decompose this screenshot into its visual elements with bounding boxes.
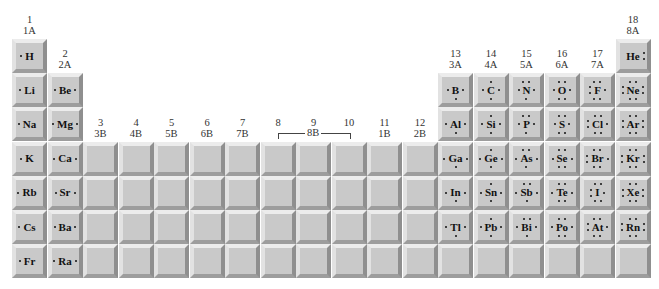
electron-dot <box>599 98 601 100</box>
electron-dot <box>603 192 605 194</box>
element-cell-rb: Rb <box>12 176 47 210</box>
electron-dot <box>526 200 528 202</box>
electron-dot <box>54 226 56 228</box>
electron-dot <box>594 115 596 117</box>
symbol-text: F <box>594 84 601 96</box>
electron-dot <box>564 166 566 168</box>
electron-dot <box>642 86 644 88</box>
empty-element-cell <box>403 210 438 244</box>
element-cell-pb: Pb <box>474 210 509 244</box>
cell-content: Bi <box>513 214 540 240</box>
cell-content: Sn <box>478 180 505 206</box>
symbol-text: Se <box>557 152 568 164</box>
cell-content: He <box>620 43 647 69</box>
electron-dot <box>464 123 466 125</box>
electron-dot <box>600 183 602 185</box>
symbol-text: Fr <box>24 255 36 267</box>
electron-dot <box>447 89 449 91</box>
element-symbol: Rb <box>21 187 37 198</box>
electron-dot <box>607 158 609 160</box>
group-number: 14 <box>473 48 509 59</box>
group-ab-label: 6A <box>544 59 580 70</box>
electron-dot <box>642 126 644 128</box>
electron-dot <box>490 166 492 168</box>
symbol-text: Ar <box>627 118 640 130</box>
electron-dot <box>599 81 601 83</box>
group-ab-label: 7A <box>580 59 616 70</box>
electron-dot <box>558 132 560 134</box>
electron-dot <box>629 235 631 237</box>
electron-dot <box>622 86 624 88</box>
group-8b-label: 8B <box>305 127 321 138</box>
group-ab-label: 2B <box>402 128 438 139</box>
element-symbol: Ra <box>57 256 72 267</box>
group-number: 7 <box>225 117 261 128</box>
electron-dot <box>551 192 553 194</box>
element-cell-bi: Bi <box>509 210 544 244</box>
symbol-text: I <box>595 186 599 198</box>
electron-dot <box>19 260 21 262</box>
element-symbol: Cl <box>591 119 604 130</box>
element-symbol: Ca <box>57 153 72 164</box>
electron-dot <box>558 235 560 237</box>
empty-element-cell <box>190 176 225 210</box>
element-cell-as: As <box>509 142 544 176</box>
element-cell-sb: Sb <box>509 176 544 210</box>
electron-dot <box>54 89 56 91</box>
electron-dot <box>621 229 623 231</box>
empty-element-cell <box>332 176 367 210</box>
electron-dot <box>594 200 596 202</box>
element-cell-h: H <box>12 39 47 73</box>
element-cell-sr: Sr <box>48 176 83 210</box>
group-ab-label: 3B <box>83 128 119 139</box>
electron-dot <box>498 89 500 91</box>
electron-dot <box>525 98 527 100</box>
electron-dot <box>593 149 595 151</box>
group-ab-label: 4A <box>473 59 509 70</box>
electron-dot <box>74 192 76 194</box>
electron-dot <box>528 81 530 83</box>
empty-element-cell <box>154 142 189 176</box>
empty-element-cell <box>261 210 296 244</box>
empty-element-cell <box>119 142 154 176</box>
electron-dot <box>490 149 492 151</box>
electron-dot <box>635 115 637 117</box>
empty-element-cell <box>403 142 438 176</box>
electron-dot <box>564 98 566 100</box>
group-number: 16 <box>544 48 580 59</box>
cell-content: Be <box>52 77 79 103</box>
symbol-text: K <box>25 152 34 164</box>
group-number: 4 <box>118 117 154 128</box>
electron-dot <box>593 218 595 220</box>
symbol-text: Xe <box>627 186 640 198</box>
group-label-11: 111B <box>367 117 403 139</box>
electron-dot <box>571 192 573 194</box>
electron-dot <box>629 132 631 134</box>
element-symbol: Rn <box>625 222 641 233</box>
electron-dot <box>480 226 482 228</box>
group-ab-label: 6B <box>189 128 225 139</box>
empty-element-cell <box>154 244 189 278</box>
element-cell-tl: Tl <box>438 210 473 244</box>
electron-dot <box>501 158 503 160</box>
electron-dot <box>635 200 637 202</box>
electron-dot <box>558 149 560 151</box>
electron-dot <box>455 235 457 237</box>
electron-dot <box>587 126 589 128</box>
electron-dot <box>455 98 457 100</box>
electron-dot <box>558 81 560 83</box>
electron-dot <box>516 226 518 228</box>
electron-dot <box>535 226 537 228</box>
electron-dot <box>455 166 457 168</box>
element-cell-i: I <box>580 176 615 210</box>
electron-dot <box>536 158 538 160</box>
electron-dot <box>643 223 645 225</box>
electron-dot <box>593 81 595 83</box>
group-number: 11 <box>367 117 403 128</box>
electron-dot <box>564 235 566 237</box>
empty-element-cell <box>296 244 331 278</box>
cell-content: At <box>584 214 611 240</box>
electron-dot <box>558 166 560 168</box>
element-symbol: Sn <box>484 187 498 198</box>
empty-element-cell <box>190 244 225 278</box>
